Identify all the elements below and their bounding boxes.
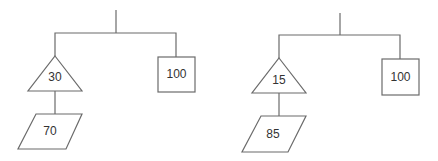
triangle-label: 30	[48, 70, 62, 84]
parallelogram-label: 70	[43, 124, 57, 138]
triangle-node: 15	[252, 58, 306, 93]
triangle-node: 30	[28, 56, 82, 91]
square-node: 100	[382, 59, 419, 95]
square-node: 100	[158, 57, 195, 92]
square-label: 100	[390, 70, 410, 84]
root-branch	[55, 33, 176, 57]
tree-left: 30 70 100	[18, 10, 195, 149]
parallelogram-node: 70	[18, 114, 82, 149]
triangle-label: 15	[272, 73, 286, 87]
parallelogram-label: 85	[266, 127, 280, 141]
tree-right: 15 85 100	[242, 13, 419, 152]
root-branch	[279, 35, 400, 59]
parallelogram-node: 85	[242, 116, 306, 152]
square-label: 100	[166, 67, 186, 81]
diagram-canvas: 30 70 100 15 85 100	[0, 0, 438, 161]
